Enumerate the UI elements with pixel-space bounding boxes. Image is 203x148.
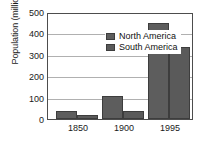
y-tick-label-100: 100 xyxy=(18,95,44,104)
legend-swatch-south-america xyxy=(106,44,115,51)
legend-label-north-america: North America xyxy=(119,31,176,41)
legend-label-south-america: South America xyxy=(119,42,178,52)
bar-chart-figure: Population (millions) 500 400 300 200 10… xyxy=(0,0,203,148)
bar-north-america-1850 xyxy=(56,111,77,119)
x-tick-label-1995: 1995 xyxy=(148,123,192,133)
x-tick-label-1900: 1900 xyxy=(102,123,146,133)
bar-group-1850 xyxy=(56,14,98,119)
y-tick-label-400: 400 xyxy=(18,30,44,39)
y-tick-label-300: 300 xyxy=(18,52,44,61)
y-tick-label-0: 0 xyxy=(18,116,44,125)
plot-area: North America South America xyxy=(47,13,193,120)
y-tick-label-200: 200 xyxy=(18,73,44,82)
chart-legend: North America South America xyxy=(105,30,181,54)
legend-swatch-north-america xyxy=(106,33,115,40)
bar-south-america-1900 xyxy=(123,111,144,119)
legend-item-south-america: South America xyxy=(106,42,178,52)
bar-south-america-1995 xyxy=(169,47,190,119)
bar-north-america-1900 xyxy=(102,96,123,119)
y-tick-label-500: 500 xyxy=(18,9,44,18)
legend-item-north-america: North America xyxy=(106,31,178,41)
x-tick-label-1850: 1850 xyxy=(56,123,100,133)
bar-south-america-1850 xyxy=(77,115,98,119)
